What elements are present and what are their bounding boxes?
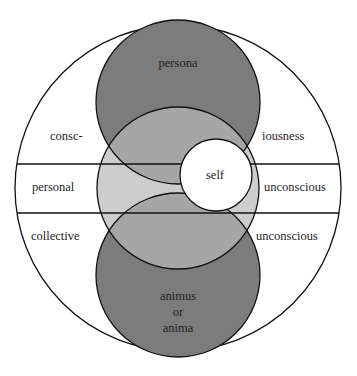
label-personal: personal — [32, 180, 75, 194]
label-consc-left: consc- — [50, 129, 83, 143]
label-self: self — [206, 168, 225, 182]
label-animus: animus — [160, 289, 196, 303]
label-or: or — [173, 305, 184, 319]
label-persona: persona — [159, 56, 198, 70]
label-consc-right: iousness — [262, 129, 305, 143]
label-collective-unconscious: unconscious — [256, 229, 318, 243]
psyche-diagram: persona consc- iousness personal unconsc… — [0, 0, 357, 376]
label-collective: collective — [31, 229, 80, 243]
label-personal-unconscious: unconscious — [264, 180, 326, 194]
label-anima: anima — [163, 321, 194, 335]
